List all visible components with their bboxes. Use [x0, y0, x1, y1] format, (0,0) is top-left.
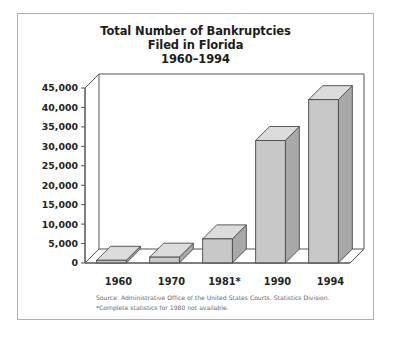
chart-title-line-3: 1960–1994 — [17, 52, 374, 66]
chart-title-line-2: Filed in Florida — [17, 38, 374, 52]
bar-side-face — [285, 127, 299, 264]
y-axis-tick-label: 0 — [71, 257, 78, 268]
x-axis-tick-label: 1981* — [208, 276, 240, 285]
bar-front-face — [150, 257, 180, 263]
y-axis-tick-label: 40,000 — [42, 102, 79, 113]
bankruptcies-bar-chart-figure: Total Number of Bankruptcies Filed in Fl… — [0, 0, 395, 344]
chart-title-line-1: Total Number of Bankruptcies — [17, 24, 374, 38]
chart-title: Total Number of Bankruptcies Filed in Fl… — [17, 24, 374, 67]
footnote-line: *Complete statistics for 1980 not availa… — [96, 303, 356, 313]
y-axis: 05,00010,00015,00020,00025,00030,00035,0… — [42, 82, 85, 268]
y-axis-tick-label: 5,000 — [48, 238, 78, 249]
bar-side-face — [338, 86, 352, 263]
x-axis-tick-label: 1990 — [264, 276, 291, 285]
y-axis-tick-label: 15,000 — [42, 199, 79, 210]
y-axis-tick-label: 35,000 — [42, 121, 79, 132]
x-axis-tick-label: 1970 — [158, 276, 185, 285]
y-axis-tick-label: 30,000 — [42, 141, 79, 152]
bar-front-face — [309, 100, 339, 263]
bar-series — [97, 86, 353, 263]
source-notes: Source: Administrative Office of the Uni… — [96, 293, 356, 312]
source-note-line: Source: Administrative Office of the Uni… — [96, 293, 356, 303]
axis-side-plane — [85, 74, 99, 263]
y-axis-tick-label: 45,000 — [42, 82, 79, 93]
x-axis-tick-label: 1994 — [317, 276, 344, 285]
y-axis-tick-label: 20,000 — [42, 180, 79, 191]
bar-1990[interactable] — [256, 127, 300, 264]
y-axis-tick-label: 10,000 — [42, 219, 79, 230]
bar-1994[interactable] — [309, 86, 353, 263]
y-axis-tick-label: 25,000 — [42, 160, 79, 171]
x-axis-tick-label: 1960 — [105, 276, 132, 285]
chart-plot-area: 05,00010,00015,00020,00025,00030,00035,0… — [17, 70, 374, 285]
bar-front-face — [203, 239, 233, 263]
bar-front-face — [256, 141, 286, 264]
